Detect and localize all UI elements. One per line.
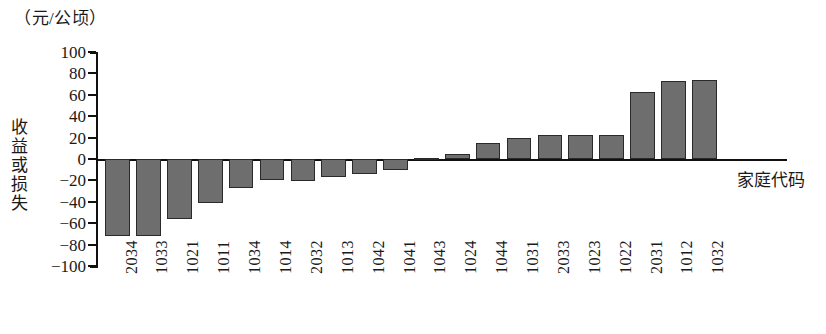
bar <box>352 159 377 174</box>
y-axis-tick-label: 20 <box>69 129 86 146</box>
y-axis-tick-mark <box>88 94 96 96</box>
y-axis-tick-label: 80 <box>69 65 86 82</box>
x-axis-tick-label: 1032 <box>710 240 726 274</box>
x-axis-tick-label: 2032 <box>309 240 325 274</box>
y-axis-tick-mark <box>88 51 96 53</box>
y-axis-tick-mark <box>88 265 96 267</box>
bar <box>198 159 223 203</box>
bar <box>538 135 563 159</box>
x-axis-tick-label: 2033 <box>556 240 572 274</box>
x-axis-tick-label: 1034 <box>247 240 263 274</box>
bar <box>568 135 593 159</box>
x-axis-tick-label: 1012 <box>679 240 695 274</box>
y-axis-tick-mark <box>88 179 96 181</box>
y-axis-tick-mark <box>88 201 96 203</box>
y-axis-tick-mark <box>88 72 96 74</box>
bar <box>414 158 439 160</box>
bar <box>291 159 316 181</box>
x-axis-tick-label: 2031 <box>649 240 665 274</box>
x-axis-tick-label: 1014 <box>278 240 294 274</box>
x-axis-tick-label: 1011 <box>216 241 232 274</box>
y-axis-tick-label: −20 <box>59 172 86 189</box>
x-axis-tick-label: 1042 <box>371 240 387 274</box>
bar <box>136 159 161 236</box>
bar <box>260 159 285 180</box>
x-axis-tick-label: 1024 <box>463 240 479 274</box>
y-axis-tick-mark <box>88 222 96 224</box>
y-axis-tick-mark <box>88 137 96 139</box>
x-axis-tick-label: 1013 <box>340 240 356 274</box>
x-axis-tick-label: 1043 <box>432 240 448 274</box>
y-axis-tick-label: −60 <box>59 215 86 232</box>
unit-caption: （元/公顷） <box>14 4 107 29</box>
x-axis-tick-label: 1033 <box>154 240 170 274</box>
y-axis-tick-mark <box>88 115 96 117</box>
bar <box>229 159 254 188</box>
bar <box>507 138 532 159</box>
bar <box>692 80 717 159</box>
bar-chart: （元/公顷） 收益或损失 家庭代码 100806040200−20−40−60−… <box>0 0 826 334</box>
y-axis-tick-label: −40 <box>59 193 86 210</box>
y-axis-tick-mark <box>88 158 96 160</box>
bar <box>661 81 686 159</box>
y-axis-tick-label: 40 <box>69 108 86 125</box>
y-axis-tick-label: −80 <box>59 236 86 253</box>
bar <box>167 159 192 219</box>
y-axis-tick-mark <box>88 244 96 246</box>
x-axis-tick-label: 2034 <box>124 240 140 274</box>
y-axis-tick-label: 60 <box>69 86 86 103</box>
bar <box>105 159 130 236</box>
bar <box>630 92 655 159</box>
x-axis-extension <box>729 159 787 161</box>
bar <box>383 159 408 170</box>
bar <box>599 135 624 159</box>
x-axis-tick-label: 1044 <box>494 240 510 274</box>
y-axis-tick-label: 0 <box>78 151 87 168</box>
x-axis-tick-label: 1031 <box>525 240 541 274</box>
x-axis-title: 家庭代码 <box>737 166 805 191</box>
y-axis-title: 收益或损失 <box>6 118 28 213</box>
bar <box>445 154 470 159</box>
x-axis-tick-label: 1021 <box>185 240 201 274</box>
plot-area: 100806040200−20−40−60−80−100 <box>96 52 729 268</box>
x-axis-tick-label: 1023 <box>587 240 603 274</box>
bar <box>321 159 346 177</box>
y-axis-tick-label: 100 <box>61 44 87 61</box>
x-axis-tick-label: 1041 <box>402 240 418 274</box>
y-axis-tick-label: −100 <box>51 258 86 275</box>
x-axis-tick-label: 1022 <box>618 240 634 274</box>
bar <box>476 143 501 159</box>
